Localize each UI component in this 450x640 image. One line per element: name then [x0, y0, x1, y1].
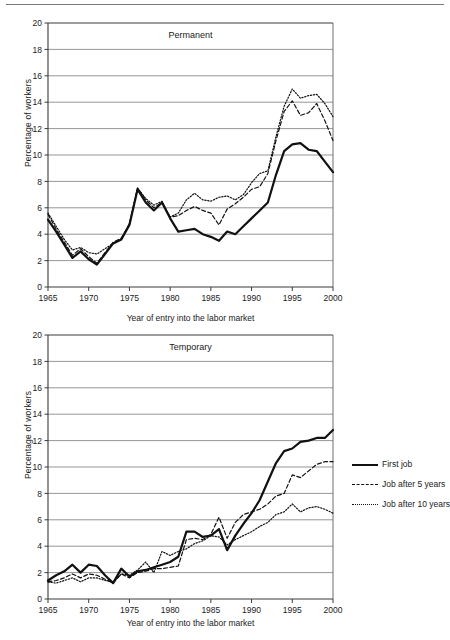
- y-axis-title-temporary: Percentage of workers: [23, 360, 33, 510]
- legend-line-dashed-icon: [352, 479, 378, 489]
- y-tick-label: 6: [37, 203, 42, 213]
- y-tick-label: 10: [33, 150, 43, 160]
- y-tick-label: 10: [33, 462, 43, 472]
- chart-permanent: 0246810121416182019651970197519801985199…: [0, 14, 450, 324]
- legend-item-job-after-10-years: Job after 10 years: [352, 494, 448, 514]
- y-tick-label: 2: [37, 256, 42, 266]
- y-tick-label: 0: [37, 594, 42, 604]
- y-tick-label: 12: [33, 124, 43, 134]
- legend-label-job-after-10-years: Job after 10 years: [382, 499, 450, 509]
- legend-item-job-after-5-years: Job after 5 years: [352, 474, 448, 494]
- chart-canvas-permanent: 0246810121416182019651970197519801985199…: [0, 14, 450, 314]
- y-tick-label: 14: [33, 409, 43, 419]
- y-tick-label: 20: [33, 330, 43, 340]
- series-line-job-after-5-years: [48, 101, 333, 263]
- legend-item-first-job: First job: [352, 454, 448, 474]
- y-tick-label: 2: [37, 568, 42, 578]
- x-tick-label: 1965: [39, 605, 58, 615]
- chart-title-permanent: Permanent: [48, 30, 333, 40]
- y-tick-label: 16: [33, 71, 43, 81]
- x-tick-label: 1975: [120, 605, 139, 615]
- y-tick-label: 20: [33, 18, 43, 28]
- legend-line-dotted-icon: [352, 499, 378, 509]
- chart-legend: First job Job after 5 years Job after 10…: [352, 454, 448, 514]
- y-tick-label: 4: [37, 541, 42, 551]
- x-tick-label: 1990: [242, 605, 261, 615]
- series-line-job-after-10-years: [48, 504, 333, 583]
- x-tick-label: 1985: [201, 605, 220, 615]
- x-tick-label: 2000: [324, 605, 343, 615]
- x-tick-label: 1965: [39, 293, 58, 303]
- x-tick-label: 1990: [242, 293, 261, 303]
- y-tick-label: 4: [37, 229, 42, 239]
- x-axis-title-permanent: Year of entry into the labor market: [48, 313, 333, 323]
- y-tick-label: 14: [33, 97, 43, 107]
- chart-title-temporary: Temporary: [48, 342, 333, 352]
- y-axis-title-permanent: Percentage of workers: [23, 48, 33, 198]
- x-tick-label: 1970: [79, 293, 98, 303]
- x-tick-label: 1980: [161, 605, 180, 615]
- chart-temporary: 0246810121416182019651970197519801985199…: [0, 326, 450, 640]
- y-tick-label: 0: [37, 282, 42, 292]
- x-tick-label: 1975: [120, 293, 139, 303]
- x-tick-label: 1985: [201, 293, 220, 303]
- legend-label-first-job: First job: [382, 459, 412, 469]
- x-tick-label: 2000: [324, 293, 343, 303]
- y-tick-label: 12: [33, 436, 43, 446]
- x-tick-label: 1980: [161, 293, 180, 303]
- x-tick-label: 1995: [283, 605, 302, 615]
- top-horizontal-rule: [6, 4, 444, 5]
- x-tick-label: 1995: [283, 293, 302, 303]
- legend-label-job-after-5-years: Job after 5 years: [382, 479, 445, 489]
- y-tick-label: 6: [37, 515, 42, 525]
- y-tick-label: 8: [37, 489, 42, 499]
- x-axis-title-temporary: Year of entry into the labor market: [48, 618, 333, 628]
- y-tick-label: 18: [33, 45, 43, 55]
- x-tick-label: 1970: [79, 605, 98, 615]
- legend-line-solid-icon: [352, 459, 378, 469]
- plot-area-permanent: 0246810121416182019651970197519801985199…: [0, 14, 450, 314]
- y-tick-label: 16: [33, 383, 43, 393]
- y-tick-label: 18: [33, 357, 43, 367]
- y-tick-label: 8: [37, 177, 42, 187]
- series-line-first-job: [48, 143, 333, 264]
